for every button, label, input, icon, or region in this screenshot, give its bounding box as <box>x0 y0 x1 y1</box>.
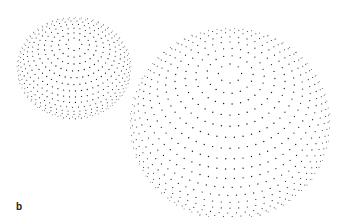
surface-dot <box>29 35 30 36</box>
surface-dot <box>255 205 256 206</box>
surface-dot <box>221 207 222 208</box>
surface-dot <box>109 44 110 45</box>
surface-dot <box>45 31 46 32</box>
surface-dot <box>164 144 165 145</box>
surface-dot <box>186 46 187 47</box>
surface-dot <box>96 24 97 25</box>
surface-dot <box>122 78 123 79</box>
surface-dot <box>47 24 48 25</box>
surface-dot <box>157 88 158 89</box>
surface-dot <box>98 91 99 92</box>
surface-dot <box>134 112 135 113</box>
surface-dot <box>294 116 295 117</box>
surface-dot <box>107 106 108 107</box>
surface-dot <box>274 207 275 208</box>
surface-dot <box>112 103 113 104</box>
surface-dot <box>159 103 160 104</box>
surface-dot <box>174 172 175 173</box>
surface-dot <box>216 168 217 169</box>
surface-dot <box>122 41 123 42</box>
surface-dot <box>189 180 190 181</box>
surface-dot <box>93 54 94 55</box>
surface-dot <box>150 100 151 101</box>
surface-dot <box>57 94 58 95</box>
surface-dot <box>221 66 222 67</box>
surface-dot <box>257 213 258 214</box>
surface-dot <box>78 24 79 25</box>
surface-dot <box>81 90 82 91</box>
surface-dot <box>60 115 61 116</box>
surface-dot <box>143 91 144 92</box>
surface-dot <box>288 170 289 171</box>
surface-dot <box>98 28 99 29</box>
surface-dot <box>45 66 46 67</box>
surface-dot <box>254 41 255 42</box>
surface-dot <box>36 65 37 66</box>
surface-dot <box>288 138 289 139</box>
surface-dot <box>283 164 284 165</box>
surface-dot <box>141 124 142 125</box>
surface-dot <box>143 105 144 106</box>
surface-dot <box>284 57 285 58</box>
surface-dot <box>319 167 320 168</box>
surface-dot <box>185 107 186 108</box>
surface-dot <box>128 72 129 73</box>
surface-dot <box>73 114 74 115</box>
surface-dot <box>49 102 50 103</box>
surface-dot <box>150 182 151 183</box>
surface-dot <box>144 131 145 132</box>
surface-dot <box>206 214 207 215</box>
surface-dot <box>288 105 289 106</box>
surface-dot <box>279 191 280 192</box>
surface-dot <box>103 89 104 90</box>
surface-dot <box>30 91 31 92</box>
surface-dot <box>152 144 153 145</box>
surface-dot <box>79 84 80 85</box>
surface-dot <box>51 79 52 80</box>
surface-dot <box>121 43 122 44</box>
surface-dot <box>127 64 128 65</box>
surface-dot <box>148 137 149 138</box>
surface-dot <box>163 52 164 53</box>
surface-dot <box>246 61 247 62</box>
surface-dot <box>210 211 211 212</box>
surface-dot <box>275 158 276 159</box>
surface-dot <box>54 54 55 55</box>
surface-dot <box>38 44 39 45</box>
surface-dot <box>33 87 34 88</box>
surface-dot <box>75 17 76 18</box>
surface-dot <box>326 148 327 149</box>
surface-dot <box>27 73 28 74</box>
surface-dot <box>170 179 171 180</box>
surface-dot <box>82 76 83 77</box>
surface-dot <box>152 164 153 165</box>
surface-dot <box>37 84 38 85</box>
surface-dot <box>67 84 68 85</box>
surface-dot <box>208 166 209 167</box>
surface-dot <box>107 40 108 41</box>
surface-dot <box>54 73 55 74</box>
surface-dot <box>124 73 125 74</box>
surface-dot <box>28 47 29 48</box>
surface-dot <box>18 60 19 61</box>
surface-dot <box>73 56 74 57</box>
surface-dot <box>311 173 312 174</box>
surface-dot <box>234 168 235 169</box>
surface-dot <box>84 116 85 117</box>
surface-dot <box>63 89 64 90</box>
surface-dot <box>118 89 119 90</box>
surface-dot <box>72 116 73 117</box>
surface-dot <box>129 79 130 80</box>
surface-dot <box>68 48 69 49</box>
surface-dot <box>177 67 178 68</box>
surface-dot <box>307 144 308 145</box>
surface-dot <box>39 58 40 59</box>
surface-dot <box>158 58 159 59</box>
surface-dot <box>55 104 56 105</box>
surface-dot <box>40 106 41 107</box>
surface-dot <box>238 42 239 43</box>
surface-dot <box>207 77 208 78</box>
surface-dot <box>298 172 299 173</box>
surface-dot <box>55 28 56 29</box>
surface-dot <box>291 70 292 71</box>
